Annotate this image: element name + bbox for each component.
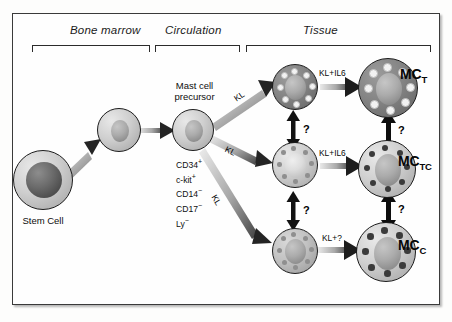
stem-cell-label: Stem Cell (10, 215, 76, 226)
precursor-label-line1: Mast cell (167, 80, 222, 91)
mcc-nucleus (374, 237, 401, 270)
granule (386, 106, 395, 115)
granule (309, 161, 314, 166)
immature-c-nucleus (285, 239, 306, 264)
granule (281, 72, 288, 79)
precursor-label-line2: precursor (167, 91, 222, 102)
granule (364, 165, 370, 171)
granule (399, 179, 405, 185)
arrow-label-klq-bot: KL+? (322, 233, 342, 243)
precursor-marker-list: CD34+ c-kit+ CD14− CD17− Ly− (176, 157, 202, 231)
cell-immature-c (272, 228, 318, 274)
mct-nucleus (376, 73, 402, 105)
mast-cell-precursor-label: Mast cell precursor (167, 80, 222, 103)
bracket-bone-marrow (32, 45, 150, 52)
granule (370, 100, 379, 109)
granule (369, 69, 378, 78)
granule (277, 84, 284, 91)
cell-progenitor (97, 108, 141, 152)
granule (385, 186, 391, 192)
label-mctc: MCTC (398, 153, 432, 172)
granule (291, 146, 296, 151)
granule (282, 174, 287, 179)
granule (309, 247, 314, 252)
granule (309, 83, 316, 90)
immature-tc-nucleus (285, 153, 306, 178)
granule (277, 248, 282, 253)
granule (364, 84, 373, 93)
progenitor-nucleus (111, 120, 129, 142)
granule (399, 262, 406, 269)
granule (293, 265, 298, 270)
granule (291, 232, 296, 237)
granule (281, 150, 286, 155)
granule (303, 236, 308, 241)
granule (305, 95, 312, 102)
label-mcc: MCC (398, 237, 426, 256)
cell-immature-t (272, 64, 318, 110)
granule (401, 98, 410, 107)
label-mct: MCT (400, 66, 427, 85)
arrow-label-klil6-mid: KL+IL6 (319, 148, 346, 158)
granule (303, 150, 308, 155)
granule (293, 179, 298, 184)
granule (277, 162, 282, 167)
granule (384, 270, 391, 277)
cell-stem-cell (13, 150, 73, 210)
granule (381, 227, 388, 234)
figure-canvas: Bone marrow Circulation Tissue (0, 0, 452, 322)
granule (305, 173, 310, 178)
arrow-label-klil6-top: KL+IL6 (319, 68, 346, 78)
question-mark-left-upper: ? (303, 123, 310, 135)
cell-immature-tc (272, 142, 318, 188)
section-label-circulation: Circulation (165, 24, 222, 36)
granule (382, 145, 388, 151)
bracket-circulation (155, 45, 240, 52)
granule (281, 236, 286, 241)
granule (282, 96, 289, 103)
bracket-tissue (246, 45, 431, 52)
marker-ckit: c-kit+ (176, 172, 202, 187)
granule (291, 68, 298, 75)
section-label-bone-marrow: Bone marrow (70, 24, 141, 36)
granule (293, 101, 300, 108)
marker-cd14: CD14− (176, 186, 202, 201)
marker-cd34: CD34+ (176, 157, 202, 172)
section-label-tissue: Tissue (303, 24, 338, 36)
marker-ly: Ly− (176, 216, 202, 231)
question-mark-left-lower: ? (303, 204, 310, 216)
question-mark-right-lower: ? (398, 203, 405, 215)
granule (369, 151, 375, 157)
granule (282, 260, 287, 265)
granule (367, 233, 374, 240)
granule (368, 264, 375, 271)
granule (370, 180, 376, 186)
marker-cd17: CD17− (176, 201, 202, 216)
stem-cell-nucleus (26, 162, 62, 198)
granule (362, 248, 369, 255)
question-mark-right-upper: ? (398, 124, 405, 136)
cell-mast-cell-precursor (172, 109, 214, 151)
granule (303, 72, 310, 79)
precursor-nucleus (185, 120, 203, 142)
granule (383, 63, 392, 72)
granule (305, 259, 310, 264)
